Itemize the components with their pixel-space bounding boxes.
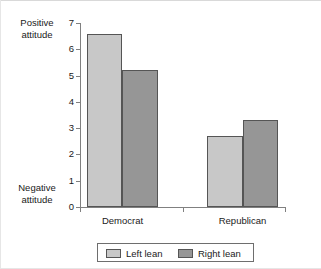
- y-tick-label-7: 7: [60, 18, 74, 28]
- figure-border-left: [0, 0, 1, 269]
- bar-republican-left-lean: [207, 136, 243, 207]
- x-tick-1: [183, 207, 184, 212]
- x-tick-0: [80, 207, 81, 212]
- y-tick-label-0: 0: [60, 202, 74, 212]
- x-tick-2: [285, 207, 286, 212]
- y-tick-6: [76, 49, 80, 50]
- y-tick-5: [76, 76, 80, 77]
- bar-chart-figure: Positive attitude Negative attitude 7654…: [0, 0, 321, 269]
- y-tick-7: [76, 23, 80, 24]
- bar-democrat-left-lean: [87, 34, 122, 207]
- y-tick-label-5: 5: [60, 71, 74, 81]
- legend-item-left-lean: Left lean: [106, 247, 162, 260]
- y-tick-label-4: 4: [60, 97, 74, 107]
- legend-label-left-lean: Left lean: [126, 248, 162, 259]
- y-tick-label-3: 3: [60, 123, 74, 133]
- figure-border-top: [0, 0, 321, 1]
- y-axis-line: [80, 23, 81, 208]
- y-tick-2: [76, 154, 80, 155]
- y-axis-bottom-annotation: Negative attitude: [8, 182, 66, 205]
- bar-democrat-right-lean: [122, 70, 158, 207]
- y-axis-top-annotation: Positive attitude: [8, 17, 66, 40]
- legend-swatch-left-lean: [106, 249, 121, 258]
- y-axis-top-annotation-line1: Positive: [8, 17, 66, 29]
- y-tick-3: [76, 128, 80, 129]
- legend-label-right-lean: Right lean: [198, 248, 241, 259]
- y-axis-bottom-annotation-line2: attitude: [8, 194, 66, 206]
- x-axis-label-republican: Republican: [198, 215, 288, 226]
- chart-legend: Left lean Right lean: [97, 243, 254, 262]
- y-tick-4: [76, 102, 80, 103]
- y-tick-label-6: 6: [60, 44, 74, 54]
- legend-item-right-lean: Right lean: [178, 247, 241, 260]
- y-tick-1: [76, 181, 80, 182]
- bar-republican-right-lean: [243, 120, 278, 207]
- y-axis-bottom-annotation-line1: Negative: [8, 182, 66, 194]
- y-tick-label-1: 1: [60, 176, 74, 186]
- x-axis-label-democrat: Democrat: [78, 215, 168, 226]
- legend-swatch-right-lean: [178, 249, 193, 258]
- y-tick-label-2: 2: [60, 149, 74, 159]
- y-axis-top-annotation-line2: attitude: [8, 29, 66, 41]
